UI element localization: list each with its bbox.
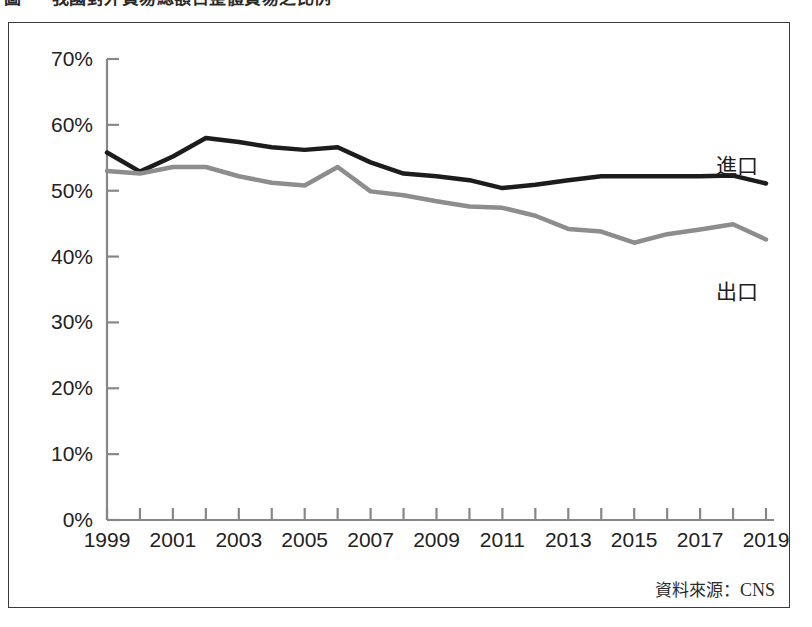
source-note: 資料來源：CNS bbox=[655, 576, 775, 601]
x-axis-tick-label: 2005 bbox=[281, 528, 328, 552]
x-axis-tick-label: 2017 bbox=[677, 528, 724, 552]
x-axis-tick-label: 2013 bbox=[545, 528, 592, 552]
figure-title-clipped: 圖 我國對外貿易總額占整體貿易之比例 bbox=[0, 0, 812, 9]
x-axis-tick-label: 2009 bbox=[413, 528, 460, 552]
y-axis-tick-label: 60% bbox=[15, 113, 93, 137]
x-axis-tick-label: 2015 bbox=[611, 528, 658, 552]
axis-group bbox=[107, 59, 774, 520]
y-axis-tick-label: 30% bbox=[15, 310, 93, 334]
y-axis-tick-label: 50% bbox=[15, 179, 93, 203]
line-chart-svg bbox=[9, 23, 791, 609]
x-axis-tick-label: 2003 bbox=[215, 528, 262, 552]
figure-title-text: 圖 我國對外貿易總額占整體貿易之比例 bbox=[4, 0, 332, 9]
series-label-import: 進口 bbox=[716, 149, 758, 179]
x-axis-tick-label: 2007 bbox=[347, 528, 394, 552]
x-axis-tick-label: 1999 bbox=[84, 528, 131, 552]
y-axis-tick-label: 70% bbox=[15, 47, 93, 71]
x-axis-tick-label: 2011 bbox=[480, 528, 525, 552]
chart-frame: 0%10%20%30%40%50%60%70% 1999200120032005… bbox=[8, 22, 790, 608]
y-axis-tick-label: 20% bbox=[15, 376, 93, 400]
y-axis-tick-label: 10% bbox=[15, 442, 93, 466]
y-axis-tick-label: 0% bbox=[15, 508, 93, 532]
x-axis-tick-label: 2001 bbox=[150, 528, 197, 552]
series-line-import bbox=[107, 138, 766, 188]
y-axis-tick-label: 40% bbox=[15, 245, 93, 269]
plot-area: 0%10%20%30%40%50%60%70% 1999200120032005… bbox=[9, 23, 791, 609]
source-label: 資料來源： bbox=[655, 580, 740, 600]
series-group bbox=[107, 138, 766, 243]
x-axis-tick-label: 2019 bbox=[743, 528, 790, 552]
source-value: CNS bbox=[740, 580, 775, 600]
series-label-export: 出口 bbox=[716, 275, 758, 305]
